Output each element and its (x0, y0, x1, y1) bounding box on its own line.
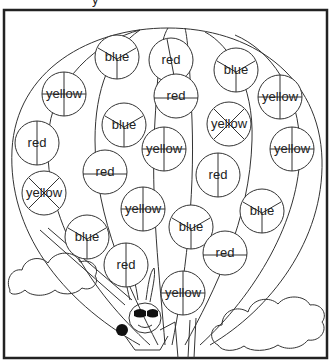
circle-label: yellow (211, 116, 248, 131)
circle-label: red (28, 135, 47, 150)
circle-blue: blue (214, 48, 258, 92)
circle-label: red (96, 164, 115, 179)
circle-label: blue (224, 62, 249, 77)
circle-label: blue (105, 49, 130, 64)
circle-red: red (203, 231, 247, 275)
circle-yellow: yellow (161, 271, 205, 315)
circle-label: yellow (274, 141, 311, 156)
circle-yellow: yellow (142, 127, 186, 171)
circle-yellow: yellow (22, 171, 66, 215)
circle-label: blue (250, 203, 275, 218)
circle-label: red (209, 167, 228, 182)
circle-label: blue (112, 117, 137, 132)
circle-red: red (154, 74, 198, 118)
circle-yellow: yellow (207, 102, 251, 146)
cloud-left (8, 253, 96, 295)
circle-label: red (167, 88, 186, 103)
circle-label: red (216, 245, 235, 260)
circle-yellow: yellow (121, 187, 165, 231)
cloud-right (212, 297, 325, 350)
circle-red: red (83, 150, 127, 194)
circle-label: yellow (146, 141, 183, 156)
circle-label: yellow (26, 185, 63, 200)
circle-yellow: yellow (42, 72, 86, 116)
circle-blue: blue (240, 189, 284, 233)
circle-yellow: yellow (258, 75, 302, 119)
color-by-word-circles: blueredblueyellowredyellowredblueyellowr… (15, 35, 314, 315)
circle-yellow: yellow (270, 127, 314, 171)
circle-label: red (162, 52, 181, 67)
circle-label: yellow (262, 89, 299, 104)
circle-red: red (104, 243, 148, 287)
circle-label: blue (179, 219, 204, 234)
circle-label: blue (75, 229, 100, 244)
circle-label: yellow (165, 285, 202, 300)
circle-blue: blue (65, 215, 109, 259)
circle-blue: blue (95, 35, 139, 79)
circle-red: red (15, 121, 59, 165)
circle-label: yellow (46, 86, 83, 101)
circle-label: red (117, 257, 136, 272)
circle-label: yellow (125, 201, 162, 216)
balloon-illustration: y (0, 0, 331, 364)
circle-blue: blue (102, 103, 146, 147)
circle-red: red (196, 153, 240, 197)
title-fragment: y (92, 0, 99, 7)
coloring-worksheet: y (0, 0, 331, 364)
